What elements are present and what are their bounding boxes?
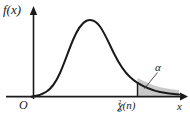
chi-superscript: 2: [118, 98, 121, 105]
critical-value-label: χ2α(n): [118, 100, 142, 111]
chi-subscript: α: [118, 106, 121, 113]
chi-argument: (n): [123, 99, 136, 111]
chi-square-plot: [0, 0, 190, 126]
alpha-label: α: [155, 62, 161, 73]
y-axis-arrow: [30, 6, 37, 15]
density-curve: [32, 20, 180, 97]
y-axis-label: f(x): [3, 3, 21, 16]
x-axis-label: x: [177, 101, 182, 112]
origin-label: O: [19, 99, 28, 111]
chi-square-figure: f(x) O x α χ2α(n): [0, 0, 190, 126]
